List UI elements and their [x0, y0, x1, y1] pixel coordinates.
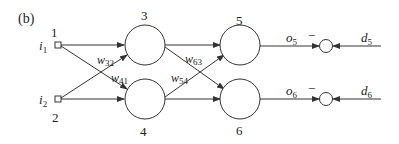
output-node-6: 6: [220, 79, 260, 138]
neural-network-diagram: (b) 1 i1 2 i2 w32 w41 3 4 w63 w54: [0, 0, 399, 144]
weight-label-w54: w54: [171, 71, 189, 86]
panel-label: (b): [18, 11, 35, 27]
node-circle-4: [125, 79, 165, 119]
output-node-5: 5: [220, 13, 260, 65]
input-node-1: 1 i1: [39, 25, 61, 55]
output-error-6: o6 − d6: [260, 81, 381, 106]
output-label-o6: o6: [286, 83, 298, 100]
input-number-2: 2: [52, 110, 59, 125]
weight-label-w63: w63: [185, 52, 203, 67]
output-error-5: o5 − d5: [260, 28, 381, 53]
input-label-2: i2: [39, 92, 47, 109]
minus-sign-6: −: [308, 81, 315, 96]
target-label-d5: d5: [361, 30, 373, 47]
hidden-node-3: 3: [125, 8, 165, 65]
node-number-5: 5: [236, 13, 243, 28]
node-number-3: 3: [141, 8, 148, 23]
node-number-6: 6: [236, 123, 243, 138]
input-node-2: 2 i2: [39, 92, 61, 125]
hidden-node-4: 4: [125, 79, 165, 139]
input-square-2: [55, 96, 61, 102]
node-number-4: 4: [140, 124, 147, 139]
input-label-1: i1: [39, 38, 47, 55]
node-circle-6: [220, 79, 260, 119]
output-label-o5: o5: [286, 30, 298, 47]
weight-label-w41: w41: [111, 71, 128, 86]
target-label-d6: d6: [361, 83, 373, 100]
node-circle-5: [220, 25, 260, 65]
input-number-1: 1: [51, 25, 58, 40]
weight-label-w32: w32: [97, 53, 114, 68]
comparator-circle-5: [320, 40, 333, 53]
node-circle-3: [125, 25, 165, 65]
input-square-1: [55, 42, 61, 48]
comparator-circle-6: [320, 93, 333, 106]
minus-sign-5: −: [308, 28, 315, 43]
